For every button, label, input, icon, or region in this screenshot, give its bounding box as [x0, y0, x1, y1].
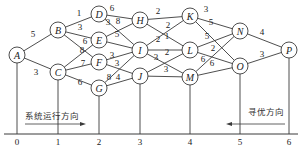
- node-label: E: [95, 35, 102, 46]
- node-label: F: [95, 57, 103, 68]
- node-label: B: [55, 25, 61, 36]
- node-K: K: [182, 8, 198, 24]
- edge-weight-B-E: 3: [78, 22, 83, 32]
- edge-weight-B-D: 1: [77, 8, 82, 18]
- edge-weight-C-G: 6: [78, 77, 83, 87]
- edge-weight-J-L: 2: [165, 47, 170, 57]
- edge-weight-M-N: 6: [201, 54, 206, 64]
- node-F: F: [91, 54, 107, 70]
- edge-weight-F-J: 3: [115, 58, 120, 68]
- node-label: A: [13, 50, 21, 61]
- edge-weight-O-P: 3: [260, 49, 265, 59]
- node-label: P: [285, 45, 292, 56]
- edge-weight-I-L: 2: [156, 34, 161, 44]
- axis-tick-label: 0: [15, 137, 20, 147]
- edge-weight-G-I: 8: [107, 72, 112, 82]
- system-direction-arrowhead-icon: [80, 122, 86, 126]
- node-G: G: [91, 80, 107, 96]
- node-label: I: [137, 45, 142, 56]
- node-P: P: [281, 42, 297, 58]
- edge-weight-A-B: 5: [31, 29, 36, 39]
- edge-weight-D-I: 3: [106, 17, 111, 27]
- node-label: O: [236, 61, 243, 72]
- edge-weight-L-N: 5: [205, 31, 210, 41]
- edge-weight-C-E: 8: [80, 45, 85, 55]
- axis-tick-label: 6: [287, 137, 292, 147]
- node-A: A: [9, 47, 25, 63]
- axis-tick-label: 4: [188, 137, 193, 147]
- edge-weight-J-M: 3: [164, 64, 169, 74]
- node-M: M: [182, 69, 198, 85]
- edge-weight-L-O: 2: [211, 43, 216, 53]
- edge-weight-K-N: 3: [204, 4, 209, 14]
- node-E: E: [91, 32, 107, 48]
- edge-weight-M-O: 6: [210, 58, 215, 68]
- edge-weight-K-O: 5: [209, 17, 214, 27]
- axis-tick-label: 3: [138, 137, 143, 147]
- axis-tick-label: 5: [238, 137, 243, 147]
- node-label: K: [186, 11, 195, 22]
- edge-weight-I-M: 3: [154, 52, 159, 62]
- node-label: C: [55, 67, 62, 78]
- node-H: H: [132, 12, 148, 28]
- edge-weight-I-K: 1: [165, 31, 170, 41]
- node-B: B: [50, 22, 66, 38]
- edge-weight-H-L: 2: [166, 20, 171, 30]
- edge-weight-A-C: 3: [34, 67, 39, 77]
- node-N: N: [232, 23, 248, 39]
- edge-weight-E-I: 5: [115, 29, 120, 39]
- nodes-group: ABCDEFGHIJKLMNOP: [9, 6, 297, 96]
- node-label: G: [95, 83, 102, 94]
- edge-weight-G-J: 4: [116, 72, 121, 82]
- node-label: D: [94, 9, 103, 20]
- node-I: I: [132, 42, 148, 58]
- node-L: L: [182, 42, 198, 58]
- node-O: O: [232, 58, 248, 74]
- axis-ticks-group: 0123456: [15, 137, 292, 147]
- node-J: J: [132, 68, 148, 84]
- node-label: M: [185, 72, 195, 83]
- node-label: H: [135, 15, 144, 26]
- edge-M-N: [190, 31, 240, 77]
- edge-weight-H-K: 2: [156, 6, 161, 16]
- edge-weight-C-F: 7: [81, 58, 86, 68]
- search-direction-label: 寻优方向: [248, 107, 284, 117]
- system-direction-label: 系统运行方向: [25, 111, 79, 121]
- search-direction-arrowhead-icon: [226, 122, 232, 126]
- node-label: L: [186, 45, 193, 56]
- node-label: N: [236, 26, 245, 37]
- node-C: C: [50, 64, 66, 80]
- stage-graph-diagram: 5313687663853384221232335526643 ABCDEFGH…: [0, 0, 302, 156]
- edge-weight-N-P: 4: [260, 27, 265, 37]
- edge-weight-E-H: 8: [116, 16, 121, 26]
- node-label: J: [138, 71, 143, 82]
- axis-tick-label: 2: [97, 137, 102, 147]
- node-D: D: [91, 6, 107, 22]
- axis-tick-label: 1: [56, 137, 61, 147]
- edge-weight-D-H: 6: [110, 3, 115, 13]
